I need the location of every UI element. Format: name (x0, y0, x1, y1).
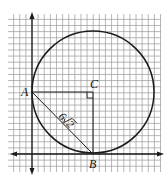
arrow-down-icon (30, 168, 35, 175)
label-point-c: C (90, 77, 99, 91)
label-point-a: A (20, 85, 29, 99)
coordinate-grid (8, 14, 161, 172)
label-point-b: B (89, 157, 97, 171)
geometry-diagram: A C B 6 2 (0, 0, 167, 186)
arrow-up-icon (30, 12, 35, 19)
